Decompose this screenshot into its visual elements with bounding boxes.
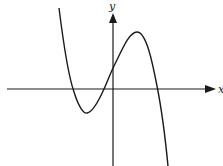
- y-axis-label: y: [108, 0, 116, 13]
- y-axis-arrow-icon: [109, 13, 117, 23]
- x-axis-label: x: [218, 83, 223, 96]
- x-axis-arrow-icon: [205, 85, 216, 93]
- function-graph: x y: [0, 0, 223, 166]
